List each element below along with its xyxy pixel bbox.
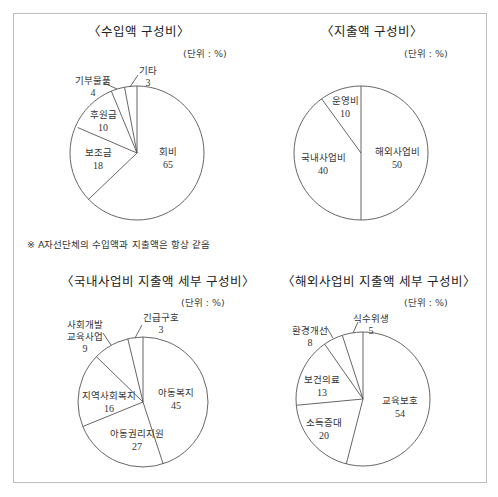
slice-label: 소득증대 (306, 417, 342, 428)
slice-label: 후원금 (90, 109, 117, 120)
slice-value: 4 (91, 87, 96, 98)
slice-value: 13 (317, 387, 327, 398)
slice-label: 식수위생 (353, 313, 389, 324)
slice-label: 아동권리지원 (110, 428, 164, 439)
slice-label: 아동복지 (158, 387, 194, 398)
slice-label: 환경개선 (292, 325, 328, 336)
slice-value: 8 (308, 337, 313, 348)
slice-label-line2: 교육사업 (67, 331, 103, 342)
slice-value: 20 (319, 430, 329, 441)
slice-value: 16 (104, 403, 114, 414)
slice-label: 기부물품 (75, 75, 111, 86)
slice-value: 45 (171, 400, 181, 411)
slice-value: 40 (318, 165, 328, 176)
slice-value: 10 (98, 122, 108, 133)
slice-value: 65 (163, 159, 173, 170)
slice-label: 국내사업비 (301, 152, 346, 163)
slice-label: 회비 (159, 146, 177, 157)
slice-value: 27 (132, 441, 142, 452)
slice-label: 해외사업비 (375, 146, 420, 157)
slice-label: 사회개발 (67, 319, 103, 330)
pie-charts: 회비 65 보조금 18 후원금 10 기부물품 4 기타 3 해외사업비 50… (0, 0, 498, 497)
slice-value: 18 (93, 160, 103, 171)
slice-value: 10 (340, 108, 350, 119)
slice-value: 3 (146, 77, 151, 88)
slice-label: 지역사회복지 (82, 390, 136, 401)
slice-value: 3 (159, 324, 164, 335)
slice-label: 운영비 (332, 95, 359, 106)
slice-value: 50 (392, 159, 402, 170)
slice-label: 기타 (139, 65, 157, 76)
slice-label: 긴급구호 (143, 312, 179, 323)
slice-label: 보건의료 (304, 374, 340, 385)
slice-label: 보조금 (85, 147, 112, 158)
slice-value: 9 (83, 343, 88, 354)
slice-label: 교육보호 (382, 395, 418, 406)
slice-value: 54 (395, 408, 405, 419)
slice-value: 5 (369, 325, 374, 336)
